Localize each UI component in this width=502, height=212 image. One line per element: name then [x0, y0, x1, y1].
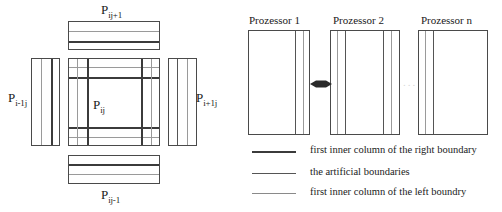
first-inner-column-dark-line [295, 31, 296, 134]
artificial-boundary-line [391, 31, 392, 134]
double-arrow-icon [310, 76, 332, 88]
artificial-boundary-line [69, 67, 159, 68]
artificial-boundary-line [425, 31, 426, 134]
label-p-i-minus-1-j: Pi-1j [8, 89, 27, 108]
artificial-boundary-line [69, 31, 159, 32]
legend-label: first inner column of the right boundary [310, 144, 477, 155]
artificial-boundary-line [77, 59, 78, 145]
first-inner-column-dark-line [87, 59, 89, 145]
legend-row: the artificial boundaries [252, 164, 502, 184]
legend-label: the artificial boundaries [310, 166, 410, 177]
artificial-boundary-line [187, 59, 188, 145]
processor-box-n [418, 30, 488, 135]
first-inner-column-dark-line [69, 164, 159, 166]
first-inner-column-dark-line [51, 59, 53, 145]
center-block [68, 58, 160, 146]
artificial-boundary-line [69, 174, 159, 175]
neighbor-block-left [31, 58, 60, 146]
first-inner-column-dark-line [69, 41, 159, 43]
neighbor-block-bottom [68, 155, 160, 184]
label-subscript: i-1j [15, 98, 27, 108]
first-inner-column-dark-line [69, 127, 159, 129]
artificial-boundary-line [337, 31, 338, 134]
neighbor-block-top [68, 21, 160, 50]
neighbor-block-right [168, 58, 197, 146]
label-p-i-plus-1-j: Pi+1j [196, 89, 217, 108]
first-inner-column-dark-line [141, 59, 143, 145]
first-inner-column-dark-line [69, 77, 159, 79]
artificial-boundary-line [69, 137, 159, 138]
artificial-boundary-line [151, 59, 152, 145]
label-subscript: i+1j [203, 98, 217, 108]
processor-title: Prozessor 2 [333, 14, 384, 26]
processor-title: Prozessor n [421, 14, 472, 26]
label-p-ij-plus-1: Pij+1 [101, 1, 122, 20]
label-p-ij-minus-1: Pij-1 [101, 186, 120, 205]
first-inner-column-dark-line [177, 59, 178, 145]
first-inner-column-dark-line [383, 31, 384, 134]
processor-box-1 [248, 30, 310, 135]
legend-swatch-left-boundary [252, 193, 296, 194]
processor-box-2 [330, 30, 400, 135]
ellipsis-text: ... [403, 76, 417, 88]
artificial-boundary-line [303, 31, 304, 134]
legend-swatch-right-boundary [252, 151, 296, 153]
first-inner-column-dark-line [433, 31, 434, 134]
label-subscript: ij [100, 105, 105, 115]
artificial-boundary-line [41, 59, 42, 145]
processor-title: Prozessor 1 [249, 14, 300, 26]
label-subscript: ij-1 [108, 195, 120, 205]
legend-row: first inner column of the right boundary [252, 142, 502, 162]
label-subscript: ij+1 [108, 10, 122, 20]
legend-row: first inner column of the left boundry [252, 184, 502, 204]
legend-label: first inner column of the left boundry [310, 186, 466, 197]
first-inner-column-dark-line [345, 31, 346, 134]
label-p-ij: Pij [93, 96, 105, 115]
stencil-diagram: Pij+1 Pij-1 Pi-1j Pi+1j Pij [0, 0, 240, 212]
legend-swatch-artificial-boundaries [252, 173, 296, 174]
legend: first inner column of the right boundary… [252, 142, 502, 208]
